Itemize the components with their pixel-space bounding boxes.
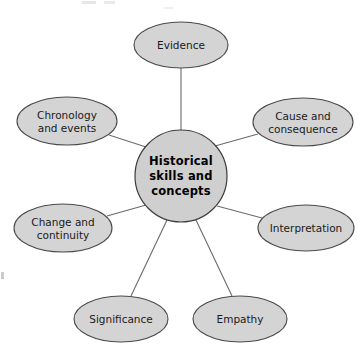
concept-map-diagram: EvidenceCause andconsequenceInterpretati… (0, 0, 363, 356)
connector-change-and-continuity (107, 205, 146, 216)
label-line: continuity (37, 229, 89, 241)
scan-artifact-top-b (104, 1, 115, 4)
label-line: Historical (149, 154, 213, 168)
center-node[interactable]: Historicalskills andconcepts (135, 130, 227, 222)
node-label-significance: Significance (89, 313, 153, 325)
scan-artifact-top-c (164, 7, 173, 9)
label-line: Evidence (157, 39, 205, 51)
node-label-interpretation: Interpretation (270, 222, 343, 234)
node-label-cause-and-consequence: Cause andconsequence (268, 110, 337, 135)
label-line: Significance (89, 313, 153, 325)
node-label-chronology-and-events: Chronologyand events (37, 109, 97, 134)
node-empathy[interactable]: Empathy (193, 296, 287, 342)
label-line: and events (38, 122, 96, 134)
node-chronology-and-events[interactable]: Chronologyand events (17, 97, 117, 145)
node-cause-and-consequence[interactable]: Cause andconsequence (253, 98, 353, 146)
node-evidence[interactable]: Evidence (134, 22, 228, 68)
connector-cause-and-consequence (215, 134, 258, 146)
label-line: concepts (151, 184, 211, 198)
node-label-evidence: Evidence (157, 39, 205, 51)
label-line: Empathy (217, 313, 264, 325)
node-label-change-and-continuity: Change andcontinuity (31, 216, 94, 241)
center-node-label: Historicalskills andconcepts (149, 154, 213, 198)
label-line: Change and (31, 216, 94, 228)
label-line: Cause and (275, 110, 330, 122)
connector-chronology-and-events (109, 135, 146, 147)
node-interpretation[interactable]: Interpretation (258, 205, 354, 251)
node-label-empathy: Empathy (217, 313, 264, 325)
node-change-and-continuity[interactable]: Change andcontinuity (14, 204, 112, 252)
connector-significance (131, 220, 167, 296)
label-line: consequence (268, 123, 337, 135)
scan-artifact-top-a (82, 1, 96, 4)
connector-empathy (196, 220, 232, 296)
scan-artifact-left-margin (1, 272, 4, 279)
node-significance[interactable]: Significance (74, 296, 168, 342)
connector-interpretation (217, 206, 262, 218)
diagram-canvas: EvidenceCause andconsequenceInterpretati… (0, 0, 363, 356)
label-line: Interpretation (270, 222, 343, 234)
label-line: skills and (149, 169, 212, 183)
label-line: Chronology (37, 109, 97, 121)
